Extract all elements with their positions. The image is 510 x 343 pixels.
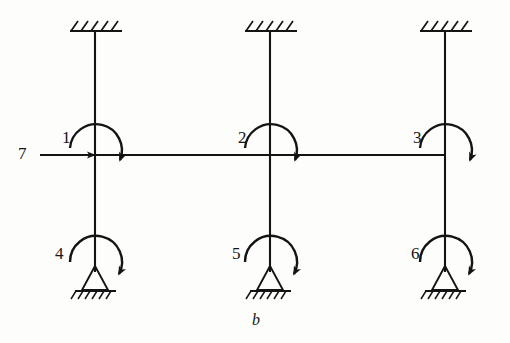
fixed-support-top-left xyxy=(70,21,122,31)
pin-support-bottom-left xyxy=(71,266,116,299)
moment-4-label: 4 xyxy=(55,245,64,262)
frame-diagram-svg xyxy=(0,0,510,343)
horizontal-force-7-label: 7 xyxy=(18,145,27,162)
fixed-support-top-middle xyxy=(245,21,297,31)
pin-support-bottom-middle xyxy=(246,266,291,299)
moment-5-label: 5 xyxy=(232,245,241,262)
pin-support-bottom-right xyxy=(421,266,466,299)
fixed-support-top-right xyxy=(420,21,472,31)
moment-2-label: 2 xyxy=(238,129,247,146)
moment-1-label: 1 xyxy=(62,129,71,146)
structural-frame-figure: 1 2 3 4 5 6 7 b xyxy=(0,0,510,343)
moment-6-label: 6 xyxy=(411,245,420,262)
figure-caption: b xyxy=(252,312,260,328)
moment-3-label: 3 xyxy=(413,129,422,146)
